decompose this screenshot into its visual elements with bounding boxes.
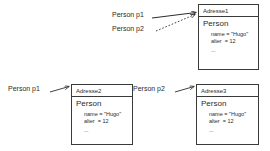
attribute-row: alter = 12 [84, 118, 132, 125]
attribute-ellipsis-adresse1: ... [203, 46, 258, 54]
attribute-row: name = "Hugo" [211, 31, 258, 38]
arrow-person-p2-to-adresse3 [175, 87, 194, 93]
object-body-adresse1: Person name = "Hugo" alter = 12 ... [199, 17, 258, 54]
attribute-ellipsis-adresse2: ... [76, 126, 132, 134]
object-box-adresse2[interactable]: Adresse2 Person name = "Hugo" alter = 12… [71, 84, 133, 145]
object-header-adresse1: Adresse1 [199, 5, 258, 17]
object-class-name-adresse2: Person [76, 99, 132, 109]
object-header-adresse3: Adresse3 [197, 85, 258, 97]
attribute-list-adresse1: name = "Hugo" alter = 12 [203, 31, 258, 45]
arrow-person-p1-to-adresse2 [50, 87, 69, 93]
object-box-adresse3[interactable]: Adresse3 Person name = "Hugo" alter = 12… [196, 84, 259, 145]
object-header-adresse2: Adresse2 [72, 85, 132, 97]
attribute-row: name = "Hugo" [209, 111, 258, 118]
attribute-list-adresse3: name = "Hugo" alter = 12 [201, 111, 258, 125]
attribute-row: alter = 12 [209, 118, 258, 125]
diagram-canvas: Person p1 Person p2 Person p1 Person p2 … [0, 0, 270, 151]
reference-label-top-p1: Person p1 [112, 10, 144, 19]
reference-label-top-p2: Person p2 [112, 24, 144, 33]
object-class-name-adresse3: Person [201, 99, 258, 109]
object-box-adresse1[interactable]: Adresse1 Person name = "Hugo" alter = 12… [198, 4, 259, 70]
reference-label-left-p1: Person p1 [8, 84, 40, 93]
object-body-adresse2: Person name = "Hugo" alter = 12 ... [72, 97, 132, 134]
arrow-person-p1-to-adresse1 [152, 13, 196, 19]
reference-label-mid-p2: Person p2 [133, 84, 165, 93]
attribute-row: alter = 12 [211, 38, 258, 45]
object-class-name-adresse1: Person [203, 19, 258, 29]
attribute-list-adresse2: name = "Hugo" alter = 12 [76, 111, 132, 125]
attribute-row: name = "Hugo" [84, 111, 132, 118]
object-body-adresse3: Person name = "Hugo" alter = 12 ... [197, 97, 258, 134]
attribute-ellipsis-adresse3: ... [201, 126, 258, 134]
